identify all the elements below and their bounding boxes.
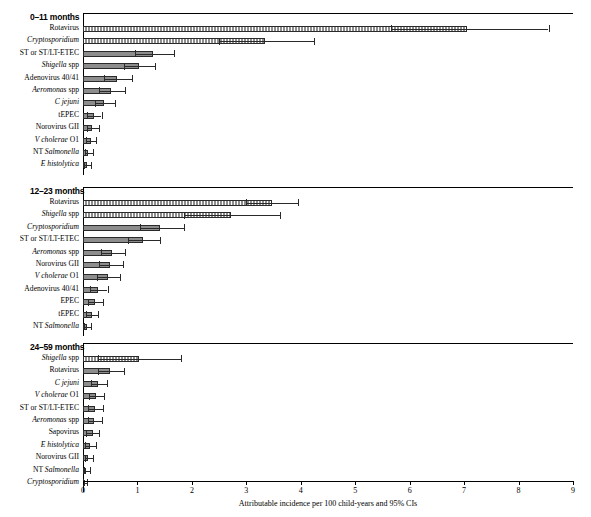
error-bar [101, 253, 126, 254]
error-cap-low [86, 311, 87, 318]
category-label: Cryptosporidium [0, 36, 79, 44]
bar [83, 200, 272, 206]
error-bar [87, 116, 101, 117]
error-cap-low [98, 355, 99, 362]
error-bar [86, 141, 96, 142]
bar-row [83, 150, 573, 156]
error-bar [95, 103, 115, 104]
bar-row [83, 381, 573, 387]
bar-row [83, 100, 573, 106]
error-cap-high [115, 100, 116, 107]
error-bar [86, 433, 99, 434]
panel-separator-2 [83, 187, 573, 188]
x-tick-label: 7 [449, 486, 479, 495]
category-label: NT Salmonella [0, 148, 79, 156]
error-bar [91, 384, 107, 385]
x-tick-label: 5 [340, 486, 370, 495]
error-cap-low [84, 323, 85, 330]
bar-row [83, 368, 573, 374]
error-cap-high [120, 274, 121, 281]
error-cap-low [85, 455, 86, 462]
bar-row [83, 162, 573, 168]
error-bar [85, 446, 96, 447]
error-cap-high [123, 261, 124, 268]
error-cap-high [90, 467, 91, 474]
error-cap-low [101, 249, 102, 256]
category-label: NT Salmonella [0, 466, 79, 474]
category-label: Norovirus GII [0, 260, 79, 268]
error-cap-high [102, 112, 103, 119]
bar-row [83, 88, 573, 94]
error-cap-high [96, 442, 97, 449]
bar-row [83, 138, 573, 144]
error-cap-high [98, 311, 99, 318]
error-bar [98, 359, 181, 360]
error-bar [88, 421, 102, 422]
category-label: Cryptosporidium [0, 478, 79, 486]
error-cap-low [184, 212, 185, 219]
x-axis-line [83, 481, 573, 482]
category-label: Norovirus GII [0, 123, 79, 131]
x-tick [573, 481, 574, 485]
x-tick-label: 1 [122, 486, 152, 495]
panel-title-3: 24–59 months [30, 342, 84, 352]
category-label: Rotavirus [0, 198, 79, 206]
category-label: ST or ST/LT-ETEC [0, 49, 79, 57]
x-tick-label: 0 [68, 486, 98, 495]
error-bar [140, 228, 184, 229]
error-bar [391, 29, 549, 30]
bar-row [83, 443, 573, 449]
bar-row [83, 113, 573, 119]
x-tick [137, 481, 138, 485]
category-label: Adenovirus 40/41 [0, 74, 79, 82]
category-label: Aeromonas spp [0, 86, 79, 94]
x-tick-label: 2 [177, 486, 207, 495]
bar-row [83, 237, 573, 243]
chart-canvas: 0–11 monthsRotavirusCryptosporidiumST or… [0, 0, 591, 517]
bar-row [83, 393, 573, 399]
error-cap-low [128, 237, 129, 244]
x-tick [464, 481, 465, 485]
error-cap-high [124, 368, 125, 375]
error-cap-high [174, 50, 175, 57]
error-cap-high [184, 224, 185, 231]
panel-title-2: 12–23 months [30, 186, 84, 196]
category-label: Adenovirus 40/41 [0, 285, 79, 293]
category-label: E histolytica [0, 441, 79, 449]
error-cap-high [125, 249, 126, 256]
bar-row [83, 468, 573, 474]
bar-row [83, 225, 573, 231]
panel-title-1: 0–11 months [30, 12, 79, 22]
error-cap-low [88, 299, 89, 306]
error-cap-high [104, 393, 105, 400]
error-bar [128, 240, 161, 241]
error-cap-low [91, 380, 92, 387]
category-label: Cryptosporidium [0, 223, 79, 231]
category-label: V cholerae O1 [0, 272, 79, 280]
error-cap-low [86, 430, 87, 437]
error-cap-low [219, 38, 220, 45]
error-cap-low [99, 87, 100, 94]
error-cap-high [181, 355, 182, 362]
bar-row [83, 63, 573, 69]
x-tick-label: 9 [558, 486, 588, 495]
category-label: Norovirus GII [0, 453, 79, 461]
category-label: NT Salmonella [0, 322, 79, 330]
x-tick [301, 481, 302, 485]
x-axis-title: Attributable incidence per 100 child-yea… [83, 499, 573, 508]
bar-row [83, 212, 573, 218]
error-bar [246, 203, 298, 204]
error-cap-low [87, 112, 88, 119]
category-label: V cholerae O1 [0, 391, 79, 399]
category-label: Aeromonas spp [0, 248, 79, 256]
error-cap-low [99, 261, 100, 268]
category-label: EPEC [0, 297, 79, 305]
category-label: Shigella spp [0, 354, 79, 362]
error-cap-low [87, 125, 88, 132]
x-tick [83, 481, 84, 485]
bar-row [83, 125, 573, 131]
bar-row [83, 287, 573, 293]
error-cap-low [84, 162, 85, 169]
error-cap-high [91, 162, 92, 169]
category-label: E histolytica [0, 160, 79, 168]
